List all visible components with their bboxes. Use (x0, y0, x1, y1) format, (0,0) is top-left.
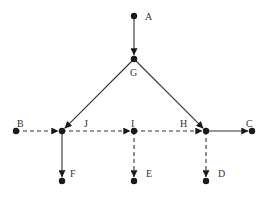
node-label-c: C (246, 118, 253, 129)
node-label-e: E (146, 168, 152, 179)
node-label-f: F (70, 168, 76, 179)
node-label-g: G (130, 67, 137, 78)
node-label-a: A (145, 11, 153, 22)
edge-g-to-j (65, 59, 134, 128)
node-f (59, 178, 65, 184)
node-label-b: B (17, 118, 24, 129)
node-j (59, 128, 65, 134)
labels-layer: AGBJIHCFED (17, 11, 253, 179)
node-a (131, 13, 137, 19)
directed-graph-diagram: AGBJIHCFED (0, 0, 271, 197)
edges-layer (16, 16, 248, 177)
node-g (131, 56, 137, 62)
node-label-h: H (180, 118, 187, 129)
node-d (203, 178, 209, 184)
node-label-i: I (131, 118, 134, 129)
node-label-d: D (218, 168, 225, 179)
node-label-j: J (84, 118, 88, 129)
node-h (203, 128, 209, 134)
node-e (131, 178, 137, 184)
edge-g-to-h (134, 59, 203, 128)
